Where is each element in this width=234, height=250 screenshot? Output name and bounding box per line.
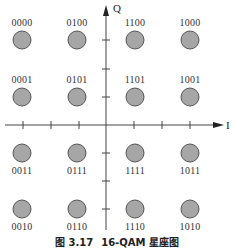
- caption-title: 16-QAM 星座图: [101, 237, 179, 248]
- point-label: 1110: [115, 221, 155, 232]
- point-1010: [181, 200, 199, 218]
- point-1110: [126, 200, 144, 218]
- point-label: 0100: [57, 17, 97, 28]
- q-axis-arrow-icon: [103, 5, 109, 16]
- point-label: 1011: [170, 165, 210, 176]
- point-label: 1000: [170, 17, 210, 28]
- caption-number: 图 3.17: [55, 237, 93, 248]
- i-axis-arrow-icon: [213, 122, 224, 128]
- point-label: 0010: [2, 221, 42, 232]
- point-label: 0001: [2, 74, 42, 85]
- point-label: 0011: [2, 165, 42, 176]
- point-1001: [181, 88, 199, 106]
- point-label: 1100: [115, 17, 155, 28]
- point-label: 0111: [57, 165, 97, 176]
- point-1011: [181, 144, 199, 162]
- q-axis-label: Q: [113, 2, 121, 14]
- point-0001: [13, 88, 31, 106]
- point-0111: [68, 144, 86, 162]
- point-label: 1101: [115, 74, 155, 85]
- i-axis-label: I: [226, 119, 230, 131]
- point-1100: [126, 31, 144, 49]
- constellation-diagram: Q I 0000 0100 1100 1000 0001 0101 1101 1…: [0, 0, 234, 250]
- point-1111: [126, 144, 144, 162]
- point-label: 0101: [57, 74, 97, 85]
- point-0110: [68, 200, 86, 218]
- point-label: 0000: [2, 17, 42, 28]
- point-label: 0110: [57, 221, 97, 232]
- point-0011: [13, 144, 31, 162]
- figure-caption: 图 3.1716-QAM 星座图: [0, 236, 234, 249]
- point-0101: [68, 88, 86, 106]
- point-1000: [181, 31, 199, 49]
- point-label: 1010: [170, 221, 210, 232]
- point-0000: [13, 31, 31, 49]
- point-label: 1111: [115, 165, 155, 176]
- point-1101: [126, 88, 144, 106]
- point-label: 1001: [170, 74, 210, 85]
- constellation-svg: [0, 0, 234, 250]
- point-0010: [13, 200, 31, 218]
- point-0100: [68, 31, 86, 49]
